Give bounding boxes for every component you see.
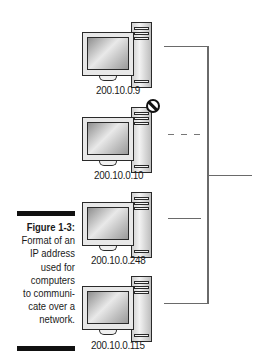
monitor-stand [99, 76, 117, 81]
figure-caption: Figure 1-3: Format of an IP address used… [8, 221, 75, 327]
monitor-stand [99, 161, 117, 166]
monitor-stand [99, 330, 117, 335]
caption-line: Format of an [15, 234, 75, 247]
caption-line: to communi- [15, 287, 75, 300]
caption-line: used for [15, 261, 75, 274]
monitor-stand [99, 246, 117, 251]
desktop-computer-icon [82, 117, 134, 161]
desktop-computer-icon [82, 286, 134, 330]
ip-label-computer-4: 200.10.0.115 [91, 339, 145, 351]
link-computer-3 [168, 218, 201, 219]
no-entry-icon [146, 99, 160, 113]
tower-icon [131, 22, 152, 88]
ip-label-computer-3: 200.10.0.248 [91, 254, 146, 266]
desktop-computer-icon [82, 32, 134, 76]
link-computer-1 [164, 46, 208, 47]
tower-icon [131, 276, 152, 342]
caption-bottom-rule [17, 346, 75, 351]
desktop-computer-icon [82, 202, 134, 246]
caption-top-rule [17, 211, 75, 216]
tower-icon [131, 192, 152, 258]
caption-line: computers [15, 274, 75, 287]
network-uplink-line [208, 175, 252, 176]
caption-line: IP address [15, 247, 75, 260]
link-computer-4 [164, 303, 208, 304]
caption-line: network. [15, 313, 75, 326]
caption-line: cate over a [15, 300, 75, 313]
ip-label-computer-1: 200.10.0.9 [96, 84, 140, 96]
figure-number: Figure 1-3: [15, 221, 75, 234]
tower-icon [131, 107, 152, 173]
ip-label-computer-2: 200.10.0.10 [94, 169, 143, 181]
